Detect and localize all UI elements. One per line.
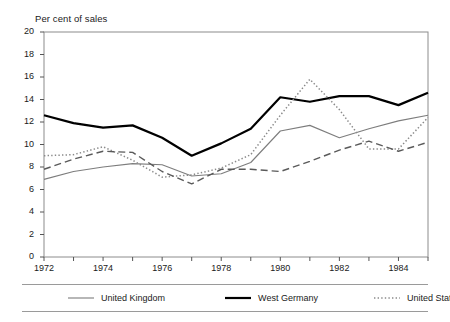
- y-tick-label: 2: [12, 229, 34, 239]
- x-tick-label: 1982: [319, 263, 359, 273]
- y-tick-label: 12: [12, 116, 34, 126]
- y-tick-label: 0: [12, 251, 34, 261]
- x-tick-label: 1976: [142, 263, 182, 273]
- y-tick-label: 16: [12, 71, 34, 81]
- chart-legend: United KingdomWest GermanyUnited StatesJ…: [22, 284, 428, 312]
- y-tick-label: 4: [12, 206, 34, 216]
- legend-line-swatch-icon: [68, 293, 94, 303]
- x-tick-label: 1978: [201, 263, 241, 273]
- legend-line-swatch-icon: [225, 293, 251, 303]
- y-tick-label: 18: [12, 49, 34, 59]
- legend-item-west-germany[interactable]: West Germany: [225, 293, 318, 303]
- legend-item-united-states[interactable]: United States: [374, 293, 450, 303]
- y-tick-label: 6: [12, 184, 34, 194]
- chart-figure: Per cent of sales 0246810121416182019721…: [0, 0, 450, 322]
- y-tick-label: 20: [12, 26, 34, 36]
- x-tick-label: 1980: [260, 263, 300, 273]
- x-tick-label: 1972: [24, 263, 64, 273]
- legend-item-label: West Germany: [258, 293, 318, 303]
- line-chart-plot: [0, 0, 450, 322]
- plot-frame: [44, 32, 428, 257]
- x-tick-label: 1984: [378, 263, 418, 273]
- legend-line-swatch-icon: [374, 293, 400, 303]
- y-tick-label: 14: [12, 94, 34, 104]
- legend-item-united-kingdom[interactable]: United Kingdom: [68, 293, 165, 303]
- y-tick-label: 10: [12, 139, 34, 149]
- y-tick-label: 8: [12, 161, 34, 171]
- legend-item-label: United States: [407, 293, 450, 303]
- legend-item-label: United Kingdom: [101, 293, 165, 303]
- x-tick-label: 1974: [83, 263, 123, 273]
